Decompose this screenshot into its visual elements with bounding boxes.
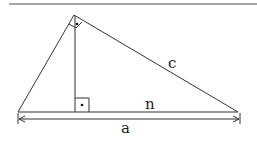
triangle: [18, 15, 238, 112]
label-c: c: [168, 54, 176, 72]
label-a: a: [121, 119, 130, 137]
triangle-diagram: c n a: [0, 0, 257, 145]
label-n: n: [145, 95, 155, 113]
right-angle-foot-marker: [75, 98, 89, 112]
